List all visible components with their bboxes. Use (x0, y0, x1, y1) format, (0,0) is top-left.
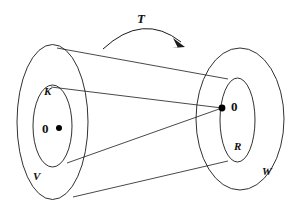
connector-outer-bottom (73, 161, 228, 197)
codomain-label: W (262, 166, 272, 177)
zero-vector-dot-codomain (219, 105, 226, 112)
connector-inner-top (51, 87, 222, 108)
connector-outer-top (57, 48, 228, 79)
outer-ellipse-v (17, 45, 88, 200)
diagram-canvas (0, 0, 294, 207)
transformation-label: T (137, 12, 145, 25)
range-label: R (234, 141, 241, 152)
zero-vector-label-domain: 0 (42, 122, 49, 135)
zero-vector-label-codomain: 0 (231, 100, 238, 113)
linear-transformation-diagram: T K V W R 0 0 (0, 0, 294, 207)
domain-label: V (33, 171, 40, 182)
zero-vector-dot-domain (56, 125, 62, 131)
connector-inner-bottom (67, 108, 222, 163)
kernel-label: K (44, 86, 51, 97)
transformation-arrow-curve (103, 29, 181, 49)
inner-ellipse-k (33, 85, 72, 167)
